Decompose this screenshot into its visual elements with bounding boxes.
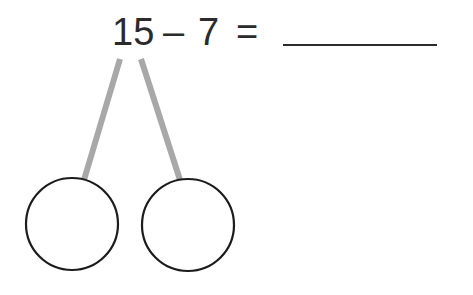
right-part-circle[interactable] bbox=[142, 179, 234, 271]
worksheet-canvas: 15 – 7 = bbox=[0, 0, 473, 295]
number-bond-diagram bbox=[0, 40, 473, 295]
number-bond-svg bbox=[0, 40, 473, 295]
right-branch-line bbox=[141, 59, 180, 180]
left-branch-line bbox=[84, 59, 120, 180]
left-part-circle[interactable] bbox=[26, 178, 118, 270]
